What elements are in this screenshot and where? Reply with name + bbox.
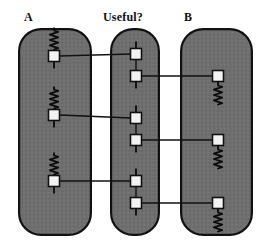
- node-m4[interactable]: [131, 135, 142, 146]
- node-b2[interactable]: [213, 135, 224, 146]
- network-diagram: [0, 0, 271, 249]
- node-m1[interactable]: [131, 49, 142, 60]
- node-a2[interactable]: [49, 110, 60, 121]
- node-a3[interactable]: [49, 176, 60, 187]
- diagram-canvas: A Useful? B: [0, 0, 271, 249]
- column-label-a: A: [24, 11, 33, 23]
- column-label-useful: Useful?: [103, 11, 143, 23]
- node-a1[interactable]: [49, 51, 60, 62]
- node-b1[interactable]: [213, 71, 224, 82]
- column-label-b: B: [184, 11, 192, 23]
- node-b3[interactable]: [213, 198, 224, 209]
- node-m2[interactable]: [131, 71, 142, 82]
- node-m6[interactable]: [131, 198, 142, 209]
- node-m3[interactable]: [131, 113, 142, 124]
- node-m5[interactable]: [131, 176, 142, 187]
